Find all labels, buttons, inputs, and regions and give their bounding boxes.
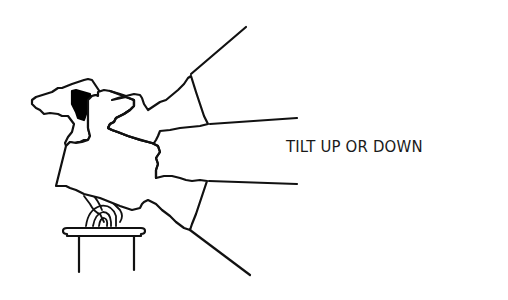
spotlight-body bbox=[32, 76, 208, 230]
spotlight-tilt-illustration bbox=[0, 0, 508, 300]
beam-line-lower bbox=[209, 181, 297, 184]
pedestal-top-plate bbox=[63, 228, 145, 236]
beam-line-upper bbox=[210, 118, 297, 124]
beam-line-top bbox=[191, 27, 246, 74]
light-beam-lines bbox=[190, 27, 297, 275]
pedestal-stand bbox=[63, 228, 145, 272]
tilt-instruction-label: TILT UP OR DOWN bbox=[286, 137, 423, 156]
beam-line-bottom bbox=[190, 230, 250, 275]
